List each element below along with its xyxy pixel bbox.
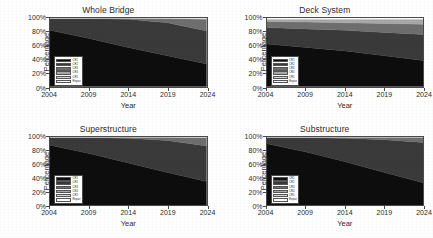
legend-swatch — [273, 194, 288, 197]
x-tick-mark — [128, 206, 129, 209]
legend-label: CR2 — [289, 181, 295, 184]
x-tick-label: 2009 — [81, 91, 97, 98]
area-series-cr5 — [267, 19, 424, 20]
legend-swatch — [56, 59, 71, 62]
x-tick-label: 2019 — [377, 91, 393, 98]
y-tick-label: 80% — [32, 28, 46, 35]
y-tick-mark — [46, 178, 49, 179]
legend-swatch — [273, 80, 288, 83]
y-tick-mark — [263, 17, 266, 18]
legend-item: CR2 — [56, 181, 81, 185]
legend-item: CR5 — [273, 194, 298, 198]
x-tick-mark — [168, 206, 169, 209]
plot-area-superstructure: Percentage Year 0%20%40%60%80%100%200420… — [49, 136, 208, 207]
legend-swatch — [56, 190, 71, 193]
x-tick-mark — [208, 206, 209, 209]
y-tick-label: 20% — [248, 70, 262, 77]
legend-swatch — [56, 177, 71, 180]
y-axis-label: Percentage — [258, 152, 267, 190]
y-axis-label: Percentage — [42, 33, 51, 71]
x-tick-label: 2014 — [337, 91, 353, 98]
y-tick-label: 40% — [32, 56, 46, 63]
y-tick-label: 80% — [248, 146, 262, 153]
x-axis-label: Year — [49, 101, 208, 110]
legend-label: CR1 — [73, 59, 79, 62]
x-tick-mark — [49, 206, 50, 209]
x-tick-mark — [384, 88, 385, 91]
x-tick-label: 2024 — [200, 209, 216, 216]
x-tick-label: 2009 — [297, 209, 313, 216]
y-tick-mark — [46, 73, 49, 74]
legend-swatch — [273, 71, 288, 74]
x-tick-mark — [266, 88, 267, 91]
panel-deck-system: Deck System Percentage Year 0%20%40%60%8… — [217, 0, 433, 119]
legend-label: CR4 — [289, 71, 295, 74]
legend-swatch — [56, 80, 71, 83]
legend-swatch — [56, 63, 71, 66]
x-tick-label: 2014 — [120, 91, 136, 98]
y-tick-mark — [263, 59, 266, 60]
legend-item: CR2 — [273, 63, 298, 67]
legend-item: CR4 — [56, 190, 81, 194]
x-tick-mark — [424, 88, 425, 91]
y-tick-label: 40% — [32, 174, 46, 181]
x-tick-mark — [49, 88, 50, 91]
y-tick-label: 60% — [32, 42, 46, 49]
x-tick-label: 2024 — [416, 209, 432, 216]
legend-item: CR3 — [56, 186, 81, 190]
x-tick-label: 2004 — [41, 91, 57, 98]
legend-swatch — [273, 190, 288, 193]
legend-item: Repair — [56, 80, 81, 84]
legend-label: CR1 — [289, 59, 295, 62]
legend-swatch — [273, 181, 288, 184]
legend-item: CR5 — [56, 194, 81, 198]
y-tick-mark — [46, 45, 49, 46]
x-tick-mark — [384, 206, 385, 209]
x-tick-label: 2024 — [200, 91, 216, 98]
y-tick-mark — [46, 59, 49, 60]
x-axis-label: Year — [266, 101, 425, 110]
panel-substructure: Substructure Percentage Year 0%20%40%60%… — [217, 119, 433, 238]
y-tick-label: 20% — [32, 70, 46, 77]
x-tick-mark — [208, 88, 209, 91]
legend-item: Repair — [273, 80, 298, 84]
legend-label: Repair — [73, 80, 81, 83]
legend-label: CR2 — [73, 181, 79, 184]
y-tick-label: 100% — [28, 132, 46, 139]
y-tick-label: 60% — [248, 160, 262, 167]
figure-grid: Whole Bridge Percentage Year 0%20%40%60%… — [0, 0, 433, 237]
legend-item: CR2 — [273, 181, 298, 185]
legend-label: CR4 — [73, 71, 79, 74]
legend-item: Repair — [56, 198, 81, 202]
y-axis-label: Percentage — [258, 33, 267, 71]
y-tick-mark — [263, 136, 266, 137]
legend-swatch — [273, 59, 288, 62]
y-tick-mark — [46, 164, 49, 165]
y-tick-label: 40% — [248, 174, 262, 181]
x-tick-mark — [168, 88, 169, 91]
y-tick-label: 60% — [248, 42, 262, 49]
legend-swatch — [56, 76, 71, 79]
legend-label: Repair — [289, 80, 297, 83]
y-tick-mark — [46, 136, 49, 137]
legend-item: CR4 — [273, 71, 298, 75]
x-tick-label: 2019 — [160, 91, 176, 98]
x-tick-label: 2009 — [297, 91, 313, 98]
y-tick-mark — [263, 178, 266, 179]
legend-label: CR5 — [73, 76, 79, 79]
y-tick-mark — [46, 31, 49, 32]
legend-item: Repair — [273, 198, 298, 202]
legend-label: CR3 — [289, 186, 295, 189]
legend-label: CR2 — [73, 63, 79, 66]
y-tick-label: 20% — [248, 188, 262, 195]
legend-label: CR2 — [289, 63, 295, 66]
x-tick-label: 2019 — [160, 209, 176, 216]
legend: CR1CR2CR3CR4CR5Repair — [271, 56, 300, 85]
legend-label: CR5 — [73, 194, 79, 197]
x-tick-label: 2004 — [258, 91, 274, 98]
y-tick-label: 80% — [248, 28, 262, 35]
x-tick-label: 2014 — [337, 209, 353, 216]
legend-swatch — [273, 63, 288, 66]
legend-label: Repair — [289, 198, 297, 201]
legend: CR1CR2CR3CR4CR5Repair — [271, 175, 300, 204]
